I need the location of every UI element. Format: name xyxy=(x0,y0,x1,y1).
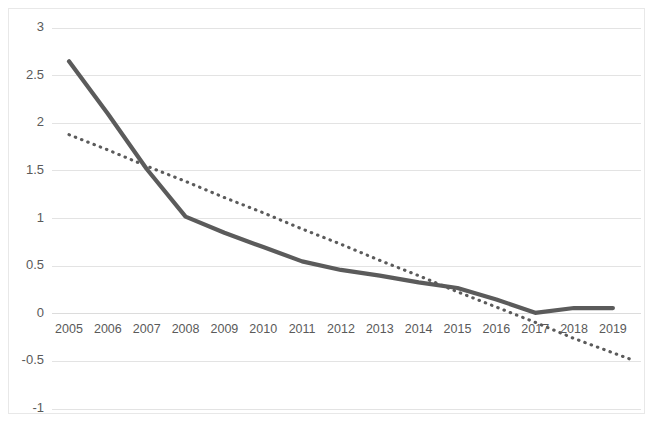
x-axis-tick-label: 2005 xyxy=(48,322,90,336)
x-axis-tick-label: 2019 xyxy=(592,322,634,336)
series-line-path xyxy=(69,61,613,312)
x-axis-tick-label: 2013 xyxy=(359,322,401,336)
x-axis-tick-label: 2008 xyxy=(165,322,207,336)
gridlines xyxy=(52,28,641,409)
chart-container: 32.521.510.50-0.5-1 20052006200720082009… xyxy=(0,0,654,423)
y-axis-tick-label: 2.5 xyxy=(4,68,44,82)
x-axis-tick-label: 2017 xyxy=(514,322,556,336)
x-axis-tick-label: 2009 xyxy=(203,322,245,336)
y-axis-tick-label: 2 xyxy=(4,115,44,129)
y-axis-tick-label: -1 xyxy=(4,401,44,415)
x-axis-tick-label: 2018 xyxy=(553,322,595,336)
x-axis-tick-label: 2014 xyxy=(398,322,440,336)
y-axis-tick-label: 1.5 xyxy=(4,163,44,177)
y-axis-tick-label: 0.5 xyxy=(4,258,44,272)
x-axis-tick-label: 2011 xyxy=(281,322,323,336)
y-axis-tick-label: 1 xyxy=(4,211,44,225)
y-axis-tick-label: -0.5 xyxy=(4,353,44,367)
x-axis-tick-label: 2007 xyxy=(126,322,168,336)
y-axis-tick-label: 0 xyxy=(4,306,44,320)
x-axis-tick-label: 2010 xyxy=(242,322,284,336)
x-axis-tick-label: 2006 xyxy=(87,322,129,336)
chart-canvas xyxy=(0,0,654,423)
x-axis-tick-label: 2016 xyxy=(475,322,517,336)
y-axis-tick-label: 3 xyxy=(4,20,44,34)
x-axis-tick-label: 2012 xyxy=(320,322,362,336)
x-axis-tick-label: 2015 xyxy=(437,322,479,336)
